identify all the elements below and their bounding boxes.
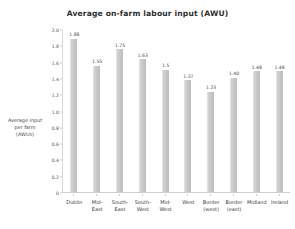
y-axis-tick-label: 0.6 <box>44 142 59 147</box>
y-axis-tick-label: 0.4 <box>44 158 59 163</box>
bar-value-label: 1.63 <box>128 53 158 58</box>
x-axis-tick-mark <box>279 194 280 196</box>
x-axis-tick-mark <box>165 194 166 196</box>
bar-value-label: 1.48 <box>265 65 295 70</box>
y-axis-tick-mark <box>60 46 62 47</box>
chart-title: Average on-farm labour input (AWU) <box>0 9 295 18</box>
y-axis-tick-label: 1.6 <box>44 60 59 65</box>
y-axis-tick-mark <box>60 127 62 128</box>
y-axis-tick-mark <box>60 30 62 31</box>
y-axis-tick-label: 1.0 <box>44 109 59 114</box>
y-axis-tick-mark <box>60 78 62 79</box>
bar-value-label: 1.88 <box>59 32 89 37</box>
x-axis-tick-label-line: Ireland <box>263 199 295 206</box>
y-axis-tick-mark <box>60 95 62 96</box>
y-axis-tick-mark <box>60 144 62 145</box>
x-axis-tick-mark <box>187 194 188 196</box>
y-axis-tick-mark <box>60 176 62 177</box>
y-axis-line <box>62 30 63 193</box>
x-axis-tick-mark <box>96 194 97 196</box>
bar[interactable] <box>276 71 283 192</box>
y-axis-tick-label: 1.4 <box>44 76 59 81</box>
bar[interactable] <box>139 59 146 192</box>
x-axis-tick-mark <box>210 194 211 196</box>
y-axis-title-line-1: Average input <box>3 117 47 124</box>
y-axis-title-line-3: (AWUs) <box>3 131 47 138</box>
y-axis-title-line-2: per farm <box>3 124 47 131</box>
bar-value-label: 1.5 <box>151 63 181 68</box>
y-axis-tick-label: 1.8 <box>44 44 59 49</box>
y-axis-tick-mark <box>60 62 62 63</box>
bar[interactable] <box>162 70 169 192</box>
bar[interactable] <box>253 71 260 192</box>
x-axis-tick-label: Ireland <box>263 199 295 206</box>
bar[interactable] <box>184 80 191 192</box>
y-axis-tick-mark <box>60 111 62 112</box>
x-axis-tick-mark <box>119 194 120 196</box>
x-axis-tick-mark <box>142 194 143 196</box>
bar[interactable] <box>70 39 77 192</box>
x-axis-tick-mark <box>256 194 257 196</box>
y-axis-tick-label: 0 <box>44 191 59 196</box>
bar-value-label: 1.23 <box>196 85 226 90</box>
chart-container: Average on-farm labour input (AWU) Avera… <box>0 0 295 229</box>
x-axis-category[interactable]: Ireland <box>269 194 291 229</box>
bar[interactable] <box>116 49 123 192</box>
y-axis-tick-label: 0.8 <box>44 125 59 130</box>
x-axis-line <box>62 192 290 193</box>
y-axis-tick-mark <box>60 160 62 161</box>
bar-value-label: 1.40 <box>219 71 249 76</box>
y-axis-tick-label: 0.2 <box>44 174 59 179</box>
bar-value-label: 1.37 <box>173 74 203 79</box>
x-axis-tick-mark <box>73 194 74 196</box>
bar[interactable] <box>93 66 100 192</box>
y-axis-tick-label: 1.2 <box>44 93 59 98</box>
bar-value-label: 1.55 <box>82 59 112 64</box>
x-axis-tick-mark <box>233 194 234 196</box>
bar[interactable] <box>207 92 214 192</box>
plot-area: 2.01.81.61.41.21.00.80.60.40.20 1.881.55… <box>62 30 290 193</box>
y-axis-tick-label: 2.0 <box>44 28 59 33</box>
bar-value-label: 1.75 <box>105 43 135 48</box>
bar[interactable] <box>230 78 237 192</box>
x-axis-labels: DublinMid-EastSouth-EastSouth-WestMid-We… <box>62 194 290 229</box>
y-axis-title: Average input per farm (AWUs) <box>3 117 47 139</box>
